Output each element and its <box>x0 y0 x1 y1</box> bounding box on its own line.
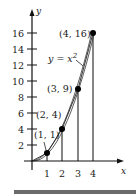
y-tick-label: 2 <box>18 140 24 151</box>
curve-label: y = x2 <box>47 52 78 64</box>
point-label: (1, 1) <box>34 129 60 140</box>
x-axis <box>24 159 124 164</box>
chart-svg: 2 4 6 8 10 12 14 16 1 2 3 4 y x (1, 1) <box>0 0 140 195</box>
y-tick-label: 16 <box>12 28 24 39</box>
curve-annotation: y = x2 <box>47 52 83 66</box>
x-tick-label: 3 <box>75 168 81 179</box>
parabola-chart: 2 4 6 8 10 12 14 16 1 2 3 4 y x (1, 1) <box>0 0 140 195</box>
point-labels: (1, 1) (2, 4) (3, 9) (4, 16) <box>34 28 91 140</box>
y-tick-label: 10 <box>12 76 24 87</box>
x-axis-arrow-icon <box>117 159 124 164</box>
point-label: (3, 9) <box>47 83 73 94</box>
point-label: (2, 4) <box>36 109 62 120</box>
point-1-1 <box>44 150 50 156</box>
y-tick-label: 14 <box>12 44 24 55</box>
point-4-16 <box>90 30 96 36</box>
annotation-leader-line <box>76 60 83 66</box>
y-tick-label: 4 <box>18 124 24 135</box>
point-2-4 <box>59 126 65 132</box>
y-axis-arrow-icon <box>30 9 35 16</box>
x-tick-label: 1 <box>44 168 50 179</box>
point-3-9 <box>75 86 81 92</box>
y-tick-label: 8 <box>18 92 24 103</box>
y-tick-label: 12 <box>12 60 24 71</box>
x-tick-label: 2 <box>59 168 65 179</box>
x-tick-labels: 1 2 3 4 <box>44 168 96 179</box>
x-tick-label: 4 <box>90 168 96 179</box>
y-tick-label: 6 <box>18 108 24 119</box>
leader-line <box>44 142 46 150</box>
y-tick-labels: 2 4 6 8 10 12 14 16 <box>12 28 24 151</box>
point-label: (4, 16) <box>59 28 91 39</box>
bottom-divider-bar <box>14 190 136 194</box>
x-axis-label: x <box>121 166 126 176</box>
y-axis-label: y <box>35 6 42 16</box>
